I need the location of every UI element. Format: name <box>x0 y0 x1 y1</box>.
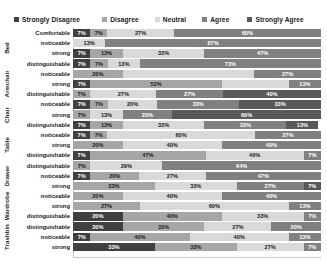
bar-segment-strongly-disagree[interactable]: 7% <box>73 172 90 180</box>
bar-segment-neutral[interactable]: 27% <box>237 243 304 251</box>
stacked-bar[interactable]: 7%7%27%60% <box>73 29 321 37</box>
bar-segment-disagree[interactable]: 40% <box>123 212 222 220</box>
bar-segment-disagree[interactable]: 53% <box>90 80 221 88</box>
bar-segment-agree[interactable]: 87% <box>105 39 321 47</box>
bar-segment-strongly-disagree[interactable]: 7% <box>73 100 90 108</box>
bar-segment-agree[interactable]: 40% <box>222 192 321 200</box>
bar-segment-agree[interactable]: 13% <box>289 202 321 210</box>
bar-segment-disagree[interactable]: 7% <box>90 131 107 139</box>
stacked-bar[interactable]: 33%33%27%7% <box>73 243 321 251</box>
bar-segment-neutral[interactable]: 40% <box>206 151 304 159</box>
bar-segment-neutral[interactable]: 33% <box>155 182 237 190</box>
bar-segment-neutral[interactable]: 33% <box>222 212 304 220</box>
bar-segment-agree[interactable]: 40% <box>222 141 321 149</box>
bar-segment-strongly-agree[interactable]: 60% <box>172 110 321 118</box>
bar-segment-strongly-disagree[interactable]: 7% <box>73 151 90 159</box>
bar-segment-agree[interactable]: 27% <box>254 70 321 78</box>
bar-segment-strongly-disagree[interactable]: 33% <box>73 243 155 251</box>
bar-segment-strongly-agree[interactable]: 13% <box>286 121 318 129</box>
stacked-bar[interactable]: 7%7%20%33%33% <box>73 100 321 108</box>
stacked-bar[interactable]: 20%40%40% <box>73 192 321 200</box>
bar-segment-agree[interactable]: 7% <box>304 243 321 251</box>
bar-segment-disagree[interactable]: 27% <box>73 202 140 210</box>
bar-segment-strongly-agree[interactable]: 33% <box>239 100 321 108</box>
bar-segment-strongly-disagree[interactable]: 7% <box>73 80 90 88</box>
bar-segment-disagree[interactable]: 20% <box>73 141 123 149</box>
legend-item-agree[interactable]: Agree <box>202 16 229 23</box>
bar-segment-strongly-disagree[interactable]: 7% <box>73 29 90 37</box>
stacked-bar[interactable]: 7%27%27%40% <box>73 90 321 98</box>
bar-segment-agree[interactable]: 13% <box>289 80 321 88</box>
bar-segment-agree[interactable]: 27% <box>255 131 321 139</box>
bar-segment-strongly-disagree[interactable]: 7% <box>73 233 90 241</box>
bar-segment-agree[interactable]: 73% <box>140 59 321 67</box>
bar-segment-agree[interactable]: 47% <box>204 49 321 57</box>
stacked-bar[interactable]: 7%13%33%33%13% <box>73 121 321 129</box>
bar-segment-agree[interactable]: 7% <box>304 212 321 220</box>
bar-segment-disagree[interactable]: 7% <box>73 90 90 98</box>
stacked-bar[interactable]: 20%40%33%7% <box>73 212 321 220</box>
bar-segment-disagree[interactable]: 7% <box>90 59 107 67</box>
bar-segment-strongly-disagree[interactable]: 20% <box>73 212 123 220</box>
bar-segment-agree[interactable]: 20% <box>271 222 321 230</box>
bar-segment-strongly-disagree[interactable]: 7% <box>73 121 90 129</box>
stacked-bar[interactable]: 7%47%40%7% <box>73 151 321 159</box>
bar-segment-disagree[interactable]: 13% <box>90 49 122 57</box>
bar-segment-disagree[interactable]: 7% <box>73 110 90 118</box>
bar-segment-agree[interactable]: 33% <box>157 100 239 108</box>
bar-segment-agree[interactable]: 27% <box>156 90 222 98</box>
bar-segment-disagree[interactable]: 20% <box>90 172 139 180</box>
bar-segment-disagree[interactable]: 47% <box>90 151 205 159</box>
bar-segment-disagree[interactable]: 7% <box>73 161 90 169</box>
stacked-bar[interactable]: 7%53%13% <box>73 80 321 88</box>
bar-segment-neutral[interactable]: 20% <box>108 100 158 108</box>
bar-segment-agree[interactable]: 33% <box>204 121 286 129</box>
bar-segment-disagree[interactable]: 13% <box>90 121 122 129</box>
bar-segment-disagree[interactable]: 33% <box>155 243 237 251</box>
bar-segment-neutral[interactable] <box>123 70 254 78</box>
bar-segment-agree[interactable]: 20% <box>123 110 173 118</box>
bar-segment-disagree[interactable]: 40% <box>90 233 189 241</box>
bar-segment-agree[interactable]: 64% <box>162 161 321 169</box>
bar-segment-neutral[interactable]: 40% <box>123 141 222 149</box>
bar-segment-strongly-disagree[interactable]: 7% <box>73 59 90 67</box>
bar-segment-strongly-disagree[interactable]: 7% <box>73 49 90 57</box>
stacked-bar[interactable]: 13%87% <box>73 39 321 47</box>
legend-item-disagree[interactable]: Disagree <box>102 16 139 23</box>
bar-segment-neutral[interactable] <box>222 80 289 88</box>
bar-segment-neutral[interactable]: 40% <box>190 233 289 241</box>
bar-segment-neutral[interactable]: 27% <box>204 222 271 230</box>
stacked-bar[interactable]: 7%40%40%13% <box>73 233 321 241</box>
bar-segment-disagree[interactable]: 7% <box>90 29 107 37</box>
stacked-bar[interactable]: 7%7%13%73% <box>73 59 321 67</box>
bar-segment-strongly-agree[interactable]: 7% <box>304 182 321 190</box>
bar-segment-disagree[interactable]: 20% <box>73 70 123 78</box>
bar-segment-neutral[interactable]: 13% <box>73 39 105 47</box>
bar-segment-strongly-disagree[interactable]: 7% <box>73 131 90 139</box>
stacked-bar[interactable]: 33%33%27%7% <box>73 182 321 190</box>
bar-segment-disagree[interactable]: 33% <box>123 222 205 230</box>
bar-segment-neutral[interactable]: 13% <box>108 59 140 67</box>
bar-segment-agree[interactable]: 60% <box>174 29 321 37</box>
bar-segment-neutral[interactable]: 29% <box>90 161 162 169</box>
bar-segment-agree[interactable]: 13% <box>289 233 321 241</box>
stacked-bar[interactable]: 7%13%20%60% <box>73 110 321 118</box>
bar-segment-agree[interactable]: 7% <box>304 151 321 159</box>
stacked-bar[interactable]: 20%27% <box>73 70 321 78</box>
stacked-bar[interactable]: 7%20%27%47% <box>73 172 321 180</box>
bar-segment-neutral[interactable]: 33% <box>123 49 205 57</box>
stacked-bar[interactable]: 20%33%27%20% <box>73 222 321 230</box>
bar-segment-neutral[interactable]: 40% <box>123 192 222 200</box>
legend-item-strongly-disagree[interactable]: Strongly Disagree <box>14 16 80 23</box>
bar-segment-disagree[interactable]: 33% <box>73 182 155 190</box>
bar-segment-strongly-agree[interactable]: 40% <box>223 90 321 98</box>
bar-segment-neutral[interactable]: 27% <box>107 29 173 37</box>
stacked-bar[interactable]: 27%60%13% <box>73 202 321 210</box>
bar-segment-disagree[interactable]: 7% <box>90 100 107 108</box>
bar-segment-neutral[interactable]: 13% <box>90 110 122 118</box>
stacked-bar[interactable]: 7%13%33%47% <box>73 49 321 57</box>
bar-segment-agree[interactable]: 27% <box>237 182 304 190</box>
bar-segment-neutral[interactable]: 33% <box>123 121 205 129</box>
bar-segment-disagree[interactable]: 20% <box>73 192 123 200</box>
bar-segment-strongly-disagree[interactable]: 20% <box>73 222 123 230</box>
